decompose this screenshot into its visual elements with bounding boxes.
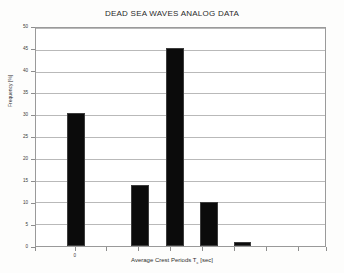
x-tick-mark <box>35 247 36 251</box>
y-tick-label: 30 <box>23 113 28 118</box>
y-tick-label: 15 <box>23 179 28 184</box>
y-tick-label: 50 <box>23 25 28 30</box>
bar <box>67 113 85 246</box>
x-tick-mark <box>170 247 171 251</box>
y-tick-label: 5 <box>25 223 28 228</box>
bars-layer <box>36 28 325 246</box>
x-tick-mark <box>234 247 235 251</box>
x-tick-mark <box>202 247 203 251</box>
bar <box>200 202 218 246</box>
x-axis-title: Average Crest Periods Tc [sec] <box>0 257 344 265</box>
x-tick-mark <box>138 247 139 251</box>
chart-title: DEAD SEA WAVES ANALOG DATA <box>0 9 344 18</box>
y-tick-label: 40 <box>23 69 28 74</box>
x-tick-mark <box>75 247 76 251</box>
bar <box>131 185 149 246</box>
x-tick-mark <box>266 247 267 251</box>
x-tick-mark <box>326 247 327 251</box>
bar <box>234 242 252 246</box>
plot-area <box>35 27 326 247</box>
x-tick-mark <box>106 247 107 251</box>
x-axis-title-suffix: [sec] <box>199 257 213 263</box>
y-tick-label: 25 <box>23 135 28 140</box>
y-tick-label: 10 <box>23 201 28 206</box>
y-tick-label: 35 <box>23 91 28 96</box>
y-tick-label: 20 <box>23 157 28 162</box>
y-tick-label: 45 <box>23 47 28 52</box>
y-axis-ticks: 05101520253035404550 <box>0 27 35 247</box>
bar <box>166 48 184 246</box>
x-tick-mark <box>298 247 299 251</box>
y-tick-label: 0 <box>25 245 28 250</box>
chart-page: DEAD SEA WAVES ANALOG DATA Frequency [%]… <box>0 0 344 273</box>
x-axis-title-prefix: Average Crest Periods T <box>131 257 196 263</box>
